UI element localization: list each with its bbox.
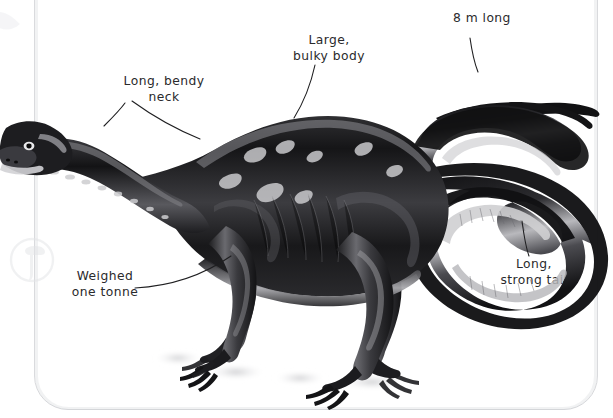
label-long-bendy-neck: Long, bendy neck (112, 74, 216, 105)
book-page: Long, bendy neck Large, bulky body 8 m l… (0, 0, 613, 418)
label-long-strong-tail: Long, strong tail (479, 257, 589, 288)
dinosaur-tail (404, 102, 608, 329)
leader-neck (132, 101, 200, 139)
dinosaur-far-legs (200, 240, 402, 378)
publisher-watermark-icon (6, 236, 58, 288)
leader-neck-stub (104, 103, 125, 126)
label-8-m-long: 8 m long (432, 11, 532, 27)
dinosaur-near-legs (180, 226, 419, 410)
label-large-bulky-body: Large, bulky body (281, 33, 377, 64)
corner-swirl-decoration (0, 6, 50, 52)
label-weighed-one-tonne: Weighed one tonne (53, 269, 157, 300)
ground-shadows (154, 352, 406, 389)
leader-tail (522, 221, 529, 256)
leader-length (470, 38, 478, 72)
leader-body (294, 65, 315, 118)
